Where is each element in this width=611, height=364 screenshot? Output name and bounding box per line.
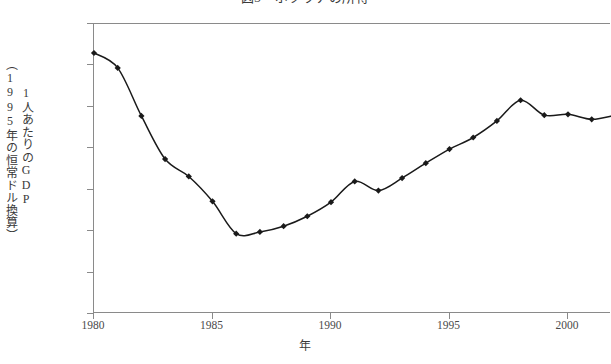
x-tick-label: 1990 xyxy=(300,319,360,331)
x-tick-label: 1980 xyxy=(63,319,123,331)
y-tick-mark xyxy=(87,230,93,231)
data-point-marker xyxy=(281,223,287,229)
data-point-marker xyxy=(446,146,452,152)
data-point-marker xyxy=(257,229,263,235)
data-point-marker xyxy=(541,112,547,118)
data-point-marker xyxy=(518,97,524,103)
y-axis-title-unit: （1995年の恒常ドル換算） xyxy=(2,58,17,241)
y-tick-mark xyxy=(87,106,93,107)
data-point-marker xyxy=(565,111,571,117)
data-point-marker xyxy=(91,50,97,56)
y-axis-title-main: 1人あたりのGDP xyxy=(18,86,33,207)
y-tick-mark xyxy=(87,189,93,190)
data-point-marker xyxy=(138,113,144,119)
chart-title: 図3 ボツワナの所得 xyxy=(0,0,610,4)
data-point-marker xyxy=(589,116,595,122)
x-tick-label: 1995 xyxy=(419,319,479,331)
y-tick-mark xyxy=(87,64,93,65)
data-point-marker xyxy=(304,213,310,219)
y-tick-mark xyxy=(87,23,93,24)
series-line xyxy=(94,53,611,236)
x-tick-label: 2000 xyxy=(537,319,597,331)
data-series-botswana-gdp-per-capita xyxy=(94,24,611,314)
data-point-marker xyxy=(375,187,381,193)
y-tick-mark xyxy=(87,272,93,273)
plot-area xyxy=(93,23,610,313)
y-axis-title: （1995年の恒常ドル換算） 1人あたりのGDP xyxy=(2,40,33,300)
x-tick-label: 1985 xyxy=(182,319,242,331)
data-point-marker xyxy=(352,178,358,184)
x-axis-title: 年 xyxy=(0,340,610,353)
y-tick-mark xyxy=(87,147,93,148)
